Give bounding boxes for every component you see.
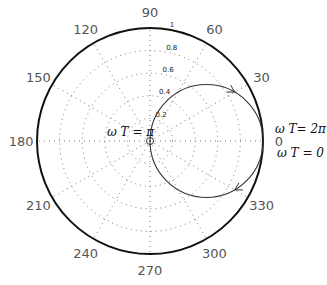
radial-tick-label: 0.6 <box>163 66 175 74</box>
radial-tick-label: 0.8 <box>166 44 177 52</box>
polar-chart: 0306090120150180210240270300330 0.20.40.… <box>0 0 327 285</box>
theta-tick-label: 180 <box>9 134 34 149</box>
spoke-gridline <box>94 141 151 239</box>
spoke-gridline <box>52 141 150 198</box>
radial-tick-labels: 0.20.40.60.81 <box>156 21 178 118</box>
theta-tick-label: 90 <box>142 5 159 20</box>
theta-tick-label: 210 <box>26 198 51 213</box>
theta-tick-label: 30 <box>253 70 270 85</box>
radial-tick-label: 0.4 <box>159 88 171 96</box>
theta-tick-label: 300 <box>202 246 227 261</box>
theta-tick-label: 330 <box>249 198 274 213</box>
annotation-wt-pi: ω T = π <box>107 125 155 139</box>
theta-tick-label: 60 <box>206 22 223 37</box>
spoke-gridline <box>150 141 248 198</box>
theta-tick-label: 240 <box>73 246 98 261</box>
radial-tick-label: 1 <box>170 21 174 29</box>
theta-tick-label: 270 <box>138 263 163 278</box>
annotation-wt-0: ω T = 0 <box>277 146 324 160</box>
theta-tick-label: 150 <box>26 70 51 85</box>
series-locus <box>150 85 263 198</box>
radial-tick-label: 0.2 <box>156 111 167 119</box>
theta-tick-label: 120 <box>73 22 98 37</box>
annotation-wt-2pi: ω T= 2π <box>275 122 327 136</box>
